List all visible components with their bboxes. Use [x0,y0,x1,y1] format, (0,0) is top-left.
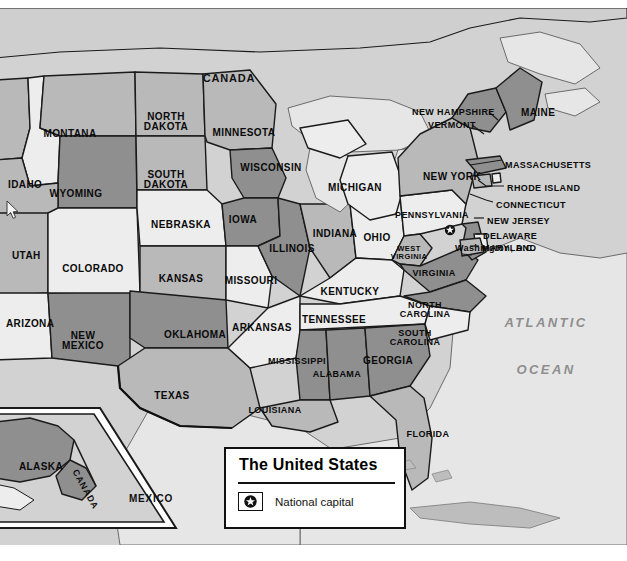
state-maryland [460,238,484,256]
washington-dc-star-marker [445,225,455,235]
state-rhode-island [492,173,501,183]
legend-capital-label: National capital [275,496,354,508]
state-arizona [0,293,52,360]
state-alabama [326,328,370,400]
state-oklahoma [130,291,228,348]
legend-divider [238,482,395,484]
mouse-cursor-icon [6,200,20,220]
map-screenshot: .st{stroke:#1a1a1a;stroke-width:1.4;stro… [0,0,627,561]
state-south-dakota [136,136,207,190]
state-kansas [140,246,226,300]
map-legend[interactable]: The United States National capital [224,447,406,529]
legend-title: The United States [239,456,378,474]
state-montana [40,72,136,136]
state-iowa [222,198,280,246]
state-colorado [48,208,140,293]
state-wyoming [58,136,137,208]
state-mississippi [296,330,330,400]
state-north-dakota [135,72,205,136]
state-utah [0,213,48,296]
star-in-circle-icon [238,492,263,511]
state-new-mexico [48,291,130,366]
state-nebraska [137,190,226,246]
legend-entry-national-capital: National capital [238,492,354,511]
